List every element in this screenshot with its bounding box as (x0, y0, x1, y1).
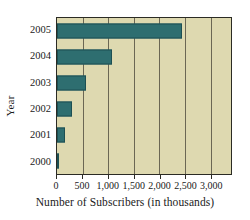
y-axis-tick-label: 2001 (18, 122, 54, 148)
plot-area (56, 17, 232, 175)
y-axis-tick-label: 2004 (18, 43, 54, 69)
bar-2001 (57, 128, 65, 143)
x-axis-tick-label: 3,000 (200, 179, 223, 193)
bar-2003 (57, 76, 86, 91)
y-axis-tick-label: 2000 (18, 149, 54, 175)
bar-row (57, 70, 231, 96)
bar-row (57, 96, 231, 122)
x-axis-tick-label: 2,500 (174, 179, 197, 193)
bar-row (57, 18, 231, 44)
x-axis-tick-label: 1,500 (122, 179, 145, 193)
bars-layer (57, 18, 231, 174)
bar-row (57, 44, 231, 70)
plot-inner (57, 18, 231, 174)
x-axis-tick-label: 500 (74, 179, 89, 193)
y-axis-title-text: Year (4, 95, 16, 116)
bar-row (57, 148, 231, 174)
bar-chart-figure: Year 200520042003200220012000 05001,0001… (0, 0, 250, 220)
x-axis-tick-label: 1,000 (97, 179, 120, 193)
y-axis-tick-label: 2005 (18, 17, 54, 43)
y-axis-tick-label: 2002 (18, 96, 54, 122)
x-axis-tick-labels: 05001,0001,5002,0002,5003,000 (0, 179, 250, 193)
bar-2002 (57, 102, 72, 117)
bar-row (57, 122, 231, 148)
bar-2005 (57, 24, 182, 39)
x-axis-title: Number of Subscribers (in thousands) (0, 196, 250, 208)
y-axis-tick-label: 2003 (18, 70, 54, 96)
x-axis-tick-label: 2,000 (148, 179, 171, 193)
bar-2000 (57, 154, 59, 169)
bar-2004 (57, 50, 112, 65)
y-axis-title: Year (0, 84, 20, 128)
y-axis-tick-labels: 200520042003200220012000 (18, 17, 54, 175)
x-axis-tick-label: 0 (54, 179, 59, 193)
